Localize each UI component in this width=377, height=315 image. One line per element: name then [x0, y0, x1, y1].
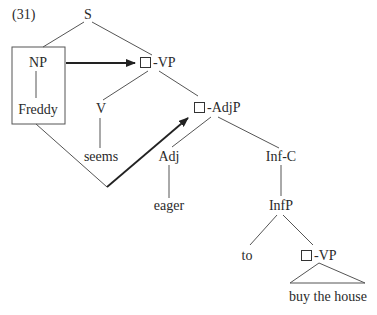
- node-vp-label: -VP: [153, 55, 176, 70]
- node-vp2: -VP: [301, 248, 337, 264]
- node-infp: InfP: [269, 198, 293, 214]
- node-freddy: Freddy: [18, 102, 58, 118]
- node-adjp: -AdjP: [194, 100, 240, 116]
- empty-box-icon: [301, 250, 312, 261]
- node-adjp-label: -AdjP: [207, 100, 240, 115]
- empty-box-icon: [194, 102, 205, 113]
- node-infc: Inf-C: [266, 149, 296, 165]
- node-eager: eager: [154, 198, 184, 214]
- node-seems: seems: [84, 149, 118, 165]
- example-number: (31): [12, 7, 35, 23]
- node-to: to: [242, 248, 253, 264]
- node-v: V: [96, 101, 106, 117]
- tree-lines: [0, 0, 377, 315]
- node-adj: Adj: [159, 149, 180, 165]
- node-np: NP: [29, 55, 47, 71]
- empty-box-icon: [140, 57, 151, 68]
- node-vp2-label: -VP: [314, 248, 337, 263]
- node-buy-the-house: buy the house: [289, 289, 367, 305]
- node-s: S: [84, 7, 92, 23]
- node-vp: -VP: [140, 55, 176, 71]
